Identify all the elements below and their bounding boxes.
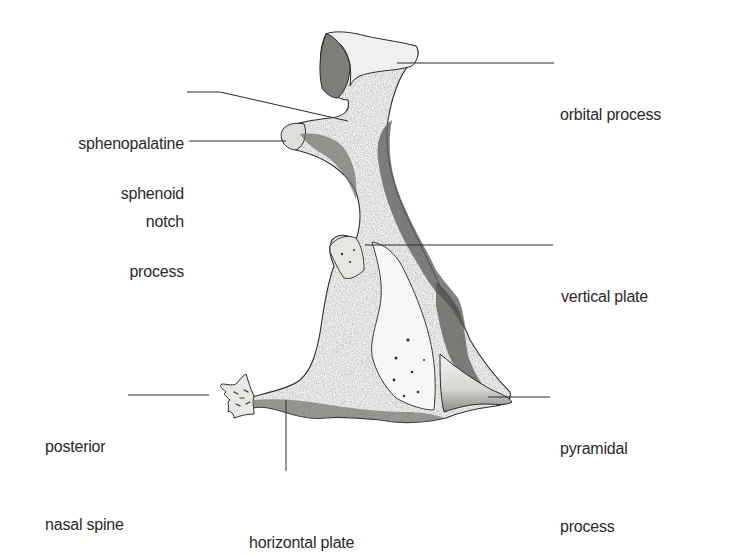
label-pyramidal-process: pyramidal process xyxy=(560,384,628,555)
label-vertical-plate: vertical plate xyxy=(561,232,648,362)
label-horizontal-plate: horizontal plate xyxy=(249,478,354,555)
label-posterior-nasal-spine: posterior nasal spine xyxy=(45,382,124,555)
label-line: process xyxy=(40,259,184,285)
label-line: sphenoid xyxy=(40,181,184,207)
label-line: orbital process xyxy=(560,102,661,128)
label-line: horizontal plate xyxy=(249,530,354,555)
label-line: posterior xyxy=(45,434,124,460)
leader-line-sphenopalatine-notch xyxy=(187,92,348,121)
label-line: pyramidal xyxy=(560,436,628,462)
label-line: nasal spine xyxy=(45,512,124,538)
label-line: process xyxy=(560,514,628,540)
label-line: vertical plate xyxy=(561,284,648,310)
posterior-nasal-spine-shape xyxy=(220,374,254,418)
label-sphenoid-process: sphenoid process xyxy=(40,129,184,337)
label-orbital-process: orbital process xyxy=(560,50,661,180)
